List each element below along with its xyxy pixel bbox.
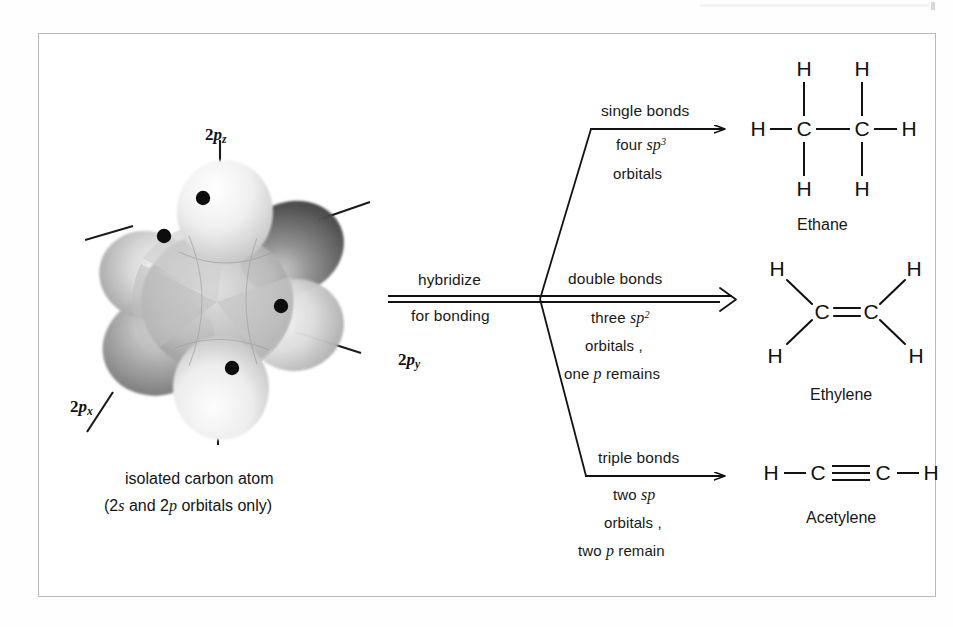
hybridize-label-above: hybridize: [418, 271, 481, 289]
ethane-h-top-right: H: [853, 58, 871, 79]
branch-detail-triple-line2: orbitals ,: [604, 514, 662, 531]
ethane-h-bot-right: H: [853, 178, 871, 199]
axis-label-2px-sub: x: [87, 405, 93, 418]
caption-p-orbital: p: [169, 497, 177, 514]
double-detail3-pre: one: [564, 365, 594, 382]
ethane-h-right: H: [900, 118, 918, 139]
branch-detail-double-line3: one p remains: [564, 365, 660, 383]
ethane-c-right: C: [853, 118, 871, 139]
triple-detail3-p: p: [606, 542, 614, 559]
ethane-h-bot-left: H: [795, 178, 813, 199]
double-detail-pre: three: [591, 309, 630, 326]
single-detail-sp: sp: [647, 136, 661, 153]
acetylene-bond-c1c2-a: [832, 465, 870, 467]
acetylene-h-left: H: [762, 462, 780, 483]
hybridize-label-below: for bonding: [411, 307, 490, 325]
branch-label-triple-bonds: triple bonds: [598, 449, 679, 467]
double-detail-sp: sp: [630, 309, 644, 326]
ethane-h-left: H: [749, 118, 767, 139]
ethane-c-left: C: [795, 118, 813, 139]
molecule-ethylene: H H C C H H Ethylene: [762, 252, 942, 402]
acetylene-c-left: C: [809, 462, 827, 483]
axis-label-2pz-italic: p: [214, 125, 223, 144]
ethane-bond-hleft-c1: [770, 128, 792, 130]
molecule-name-acetylene: Acetylene: [806, 509, 876, 527]
branch-detail-single-line2: orbitals: [613, 165, 662, 182]
axis-label-2px-prefix: 2: [70, 397, 79, 416]
ethylene-h-lower-right: H: [907, 345, 925, 366]
orbital-caption-line1: isolated carbon atom: [125, 470, 274, 488]
axis-label-2pz-sub: z: [222, 133, 227, 146]
triple-detail3-post: remain: [614, 542, 665, 559]
acetylene-bond-c1c2-b: [832, 472, 870, 474]
double-detail3-p: p: [594, 365, 602, 382]
molecule-name-ethylene: Ethylene: [810, 386, 872, 404]
single-detail-pre: four: [616, 136, 647, 153]
branch-label-single-bonds: single bonds: [601, 102, 689, 120]
ethylene-h-upper-right: H: [905, 258, 923, 279]
caption-tail: orbitals only): [177, 497, 272, 514]
axis-label-2pz-prefix: 2: [205, 125, 214, 144]
axis-label-2px: 2px: [70, 397, 93, 418]
scan-mark-top: [700, 4, 930, 7]
single-detail-exp: 3: [661, 136, 666, 147]
branch-detail-single-line1: four sp3: [616, 136, 666, 154]
orbital-caption-line2: (2s and 2p orbitals only): [104, 497, 272, 515]
branch-detail-double-line2: orbitals ,: [585, 337, 643, 354]
branch-detail-triple-line3: two p remain: [578, 542, 665, 560]
branch-detail-double-line1: three sp2: [591, 309, 650, 327]
triple-detail-sp: sp: [641, 486, 655, 503]
scan-mark-corner: [931, 2, 935, 10]
ethane-bond-c2-htop: [861, 82, 863, 116]
caption-paren-open: (2: [104, 497, 118, 514]
triple-detail3-pre: two: [578, 542, 606, 559]
axis-label-2py-sub: y: [415, 358, 420, 371]
axis-label-2py: 2py: [398, 350, 420, 371]
ethane-bond-c1-hbot: [803, 142, 805, 176]
figure-page: 2pz 2px 2py isolated carbon atom (2s and…: [0, 0, 953, 627]
acetylene-bond-c2-hright: [897, 472, 919, 474]
ethane-bond-c1-c2: [816, 128, 850, 130]
axis-label-2py-prefix: 2: [398, 350, 407, 369]
triple-detail-pre: two: [613, 486, 641, 503]
double-detail-exp: 2: [644, 309, 649, 320]
double-detail3-post: remains: [602, 365, 660, 382]
branch-detail-triple-line1: two sp: [613, 486, 655, 504]
ethane-bond-c1-htop: [803, 82, 805, 116]
branch-label-double-bonds: double bonds: [568, 270, 662, 288]
caption-and: and 2: [124, 497, 168, 514]
ethane-bond-c2-hbot: [861, 142, 863, 176]
molecule-acetylene: H C C H Acetylene: [762, 462, 942, 542]
acetylene-c-right: C: [874, 462, 892, 483]
ethane-h-top-left: H: [795, 58, 813, 79]
axis-label-2py-italic: p: [407, 350, 416, 369]
ethylene-h-upper-left: H: [768, 258, 786, 279]
axis-label-2px-italic: p: [79, 397, 88, 416]
ethylene-c-right: C: [862, 301, 880, 322]
ethylene-h-lower-left: H: [766, 345, 784, 366]
axis-label-2pz: 2pz: [205, 125, 227, 146]
acetylene-h-right: H: [922, 462, 940, 483]
acetylene-bond-c1c2-c: [832, 479, 870, 481]
ethane-bond-c2-hright: [874, 128, 897, 130]
acetylene-bond-hleft-c1: [784, 472, 806, 474]
molecule-ethane: H H H C C H H H Ethane: [752, 58, 942, 233]
ethylene-c-left: C: [813, 301, 831, 322]
carbon-orbital-illustration: [85, 140, 415, 450]
molecule-name-ethane: Ethane: [797, 216, 848, 234]
